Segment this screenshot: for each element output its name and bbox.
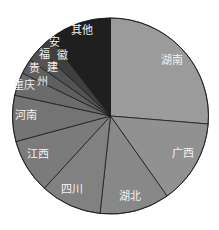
slice-label: 州: [37, 75, 48, 88]
slice-label: 建: [47, 60, 58, 74]
slice-label: 福: [39, 47, 50, 61]
pie-slice: [111, 18, 209, 124]
slice-label: 安: [49, 35, 60, 49]
slice-label: 其他: [71, 24, 93, 37]
slice-label: 贵: [29, 62, 40, 75]
slice-label: 湖北: [119, 190, 141, 203]
slice-label: 湖南: [161, 54, 183, 67]
slice-label: 江西: [27, 148, 49, 161]
slice-label: 广西: [172, 147, 194, 160]
slice-label: 河南: [15, 109, 37, 122]
pie-chart: 湖南广西湖北四川江西河南重庆贵州福建安徽其他: [0, 0, 219, 230]
slice-label: 徽: [57, 48, 68, 62]
slice-label: 四川: [61, 183, 83, 196]
slice-label: 重庆: [13, 78, 35, 92]
